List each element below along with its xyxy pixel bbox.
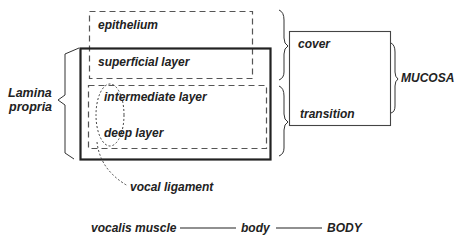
vocalis-muscle-label: vocalis muscle [91,222,176,234]
lamina-label-line1: Lamina [8,87,52,100]
BODY-label: BODY [327,222,362,234]
body-label: body [241,222,270,234]
transition-label: transition [300,108,355,120]
transition-brace [279,86,288,156]
epithelium-label: epithelium [98,19,158,31]
mucosa-brace [391,43,398,113]
cover-label: cover [298,38,330,50]
lamina-label-line2: propria [9,101,52,114]
superficial-layer-label: superficial layer [98,56,189,68]
lamina-propria-bracket [58,48,79,159]
diagram-canvas [0,0,461,245]
vocal-ligament-label: vocal ligament [130,181,213,193]
cover-brace [279,10,288,80]
deep-layer-label: deep layer [104,127,163,139]
mucosa-label: MUCOSA [401,72,454,84]
intermediate-layer-label: intermediate layer [104,91,207,103]
